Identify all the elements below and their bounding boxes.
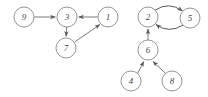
node-3-label: 3 [64, 12, 70, 22]
node-8[interactable]: 8 [162, 71, 182, 91]
edge-3-to-7 [66, 27, 67, 36]
node-9[interactable]: 9 [14, 7, 34, 27]
node-4-label: 4 [129, 76, 134, 86]
node-2[interactable]: 2 [138, 7, 158, 27]
edge-4-to-6 [138, 62, 144, 74]
node-5[interactable]: 5 [180, 8, 200, 28]
node-4[interactable]: 4 [121, 71, 141, 91]
node-7-label: 7 [64, 43, 69, 53]
graph-svg-canvas: 9 3 1 7 2 5 [0, 0, 208, 97]
node-1-label: 1 [106, 12, 111, 22]
node-3[interactable]: 3 [57, 7, 77, 27]
edge-8-to-6 [153, 62, 166, 74]
node-8-label: 8 [170, 76, 175, 86]
node-6-label: 6 [146, 45, 151, 55]
graph-diagram: 9 3 1 7 2 5 [0, 0, 208, 97]
node-group: 9 3 1 7 2 5 [14, 7, 200, 91]
node-2-label: 2 [146, 12, 151, 22]
node-1[interactable]: 1 [98, 7, 118, 27]
node-7[interactable]: 7 [56, 38, 76, 58]
node-9-label: 9 [22, 12, 27, 22]
edge-5-to-2-curved [156, 25, 183, 30]
node-6[interactable]: 6 [138, 40, 158, 60]
edge-2-to-5-curved [155, 6, 182, 11]
node-5-label: 5 [188, 13, 193, 23]
edge-7-to-1 [75, 25, 100, 42]
